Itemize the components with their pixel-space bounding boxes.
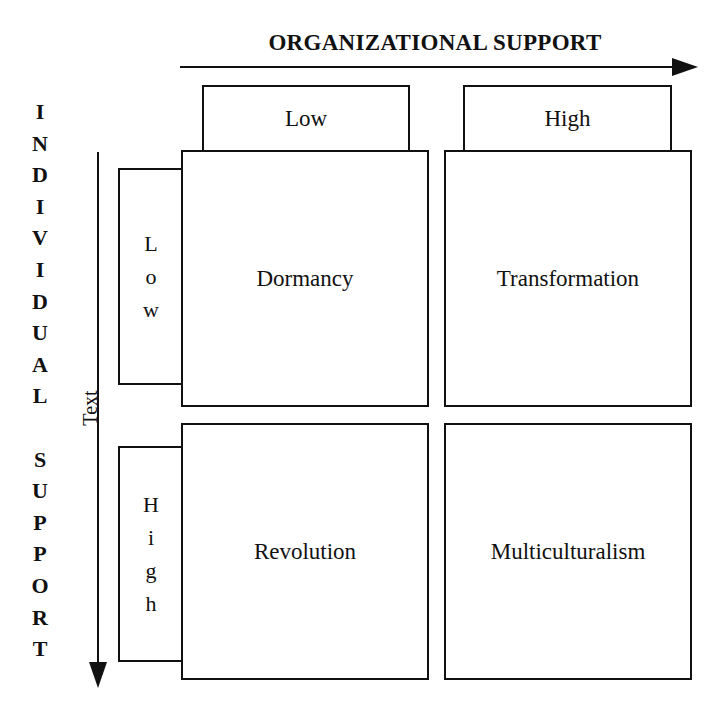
- y-title-letter: L: [33, 380, 48, 412]
- column-header-low: Low: [202, 85, 410, 152]
- quadrant-transformation: Transformation: [444, 150, 692, 407]
- row-header-low-letter: o: [146, 260, 157, 293]
- row-header-low-letter: L: [144, 227, 157, 260]
- x-axis-title: ORGANIZATIONAL SUPPORT: [180, 30, 690, 56]
- quadrant-label: Transformation: [497, 266, 639, 292]
- x-axis-arrow-line: [180, 66, 680, 68]
- y-axis-arrow-line: [97, 152, 99, 667]
- quadrant-dormancy: Dormancy: [181, 150, 429, 407]
- y-title-letter: T: [33, 633, 48, 665]
- column-header-high-label: High: [545, 106, 591, 132]
- y-title-letter: U: [32, 475, 48, 507]
- y-title-letter: A: [32, 349, 48, 381]
- y-title-letter: D: [32, 286, 48, 318]
- y-title-letter: D: [32, 159, 48, 191]
- row-header-high-letter: H: [143, 488, 159, 521]
- y-title-letter: R: [32, 602, 48, 634]
- quadrant-label: Dormancy: [256, 266, 353, 292]
- row-header-high-letter: g: [146, 554, 157, 587]
- y-title-letter: I: [36, 254, 45, 286]
- quadrant-revolution: Revolution: [181, 423, 429, 680]
- row-header-low-letter: w: [143, 293, 159, 326]
- y-axis-title: I N D I V I D U A L S U P P O R T: [22, 96, 58, 665]
- row-header-high-letter: i: [148, 521, 154, 554]
- y-title-letter: V: [32, 222, 48, 254]
- arrow-down-icon: [89, 662, 107, 688]
- row-header-high-letter: h: [146, 587, 157, 620]
- quadrant-label: Revolution: [254, 539, 356, 565]
- column-header-high: High: [463, 85, 672, 152]
- row-header-low: L o w: [118, 168, 184, 385]
- y-title-letter: P: [33, 538, 46, 570]
- quadrant-multiculturalism: Multiculturalism: [444, 423, 692, 680]
- y-title-letter: P: [33, 507, 46, 539]
- arrow-right-icon: [672, 58, 698, 76]
- quadrant-label: Multiculturalism: [491, 539, 646, 565]
- row-header-high: H i g h: [118, 446, 184, 662]
- y-title-gap: [37, 412, 43, 444]
- y-title-letter: N: [32, 128, 48, 160]
- y-title-letter: O: [31, 570, 48, 602]
- column-header-low-label: Low: [285, 106, 327, 132]
- y-title-letter: U: [32, 317, 48, 349]
- y-title-letter: S: [34, 444, 46, 476]
- y-axis-text-label: Text: [75, 378, 105, 438]
- y-title-letter: I: [36, 191, 45, 223]
- y-title-letter: I: [36, 96, 45, 128]
